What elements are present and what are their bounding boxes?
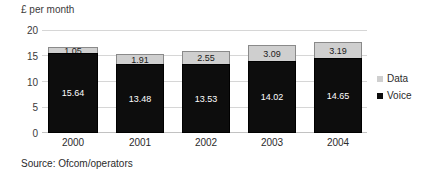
bar-group-2003[interactable]: 3.09 14.02 [248, 45, 296, 133]
bar-segment-data-2002[interactable]: 2.55 [182, 51, 230, 64]
gridline-20 [42, 30, 367, 31]
bar-group-2002[interactable]: 2.55 13.53 [182, 51, 230, 133]
bar-segment-data-2003[interactable]: 3.09 [248, 45, 296, 61]
legend-swatch-data-icon [377, 76, 383, 82]
bar-group-2004[interactable]: 3.19 14.65 [314, 42, 362, 133]
legend-item-data[interactable]: Data [377, 73, 411, 84]
bar-segment-voice-2000[interactable]: 15.64 [48, 53, 98, 133]
bar-label-voice-2000: 15.64 [49, 88, 97, 98]
y-axis-tick-labels: 20 15 10 5 0 [8, 30, 38, 133]
y-tick-15: 15 [10, 50, 38, 61]
legend-item-voice[interactable]: Voice [377, 90, 411, 101]
bar-label-data-2004: 3.19 [315, 46, 361, 56]
x-label-2004: 2004 [314, 137, 362, 148]
bar-label-voice-2002: 13.53 [183, 94, 229, 104]
bar-label-data-2002: 2.55 [183, 53, 229, 63]
bar-segment-data-2004[interactable]: 3.19 [314, 42, 362, 58]
bar-label-data-2003: 3.09 [249, 49, 295, 59]
bar-segment-voice-2004[interactable]: 14.65 [314, 58, 362, 133]
y-tick-5: 5 [10, 102, 38, 113]
x-label-2001: 2001 [116, 137, 164, 148]
y-tick-0: 0 [10, 128, 38, 139]
y-axis-title: £ per month [21, 4, 74, 15]
bar-segment-voice-2001[interactable]: 13.48 [116, 64, 164, 133]
bar-segment-voice-2002[interactable]: 13.53 [182, 64, 230, 133]
bar-segment-data-2001[interactable]: 1.91 [116, 54, 164, 64]
bar-label-voice-2003: 14.02 [249, 92, 295, 102]
source-note: Source: Ofcom/operators [21, 158, 133, 169]
chart-legend: Data Voice [377, 73, 411, 101]
bar-group-2001[interactable]: 1.91 13.48 [116, 54, 164, 133]
x-label-2003: 2003 [248, 137, 296, 148]
legend-swatch-voice-icon [377, 93, 383, 99]
y-tick-10: 10 [10, 76, 38, 87]
legend-label-voice: Voice [387, 90, 411, 101]
bar-group-2000[interactable]: 1.05 15.64 [48, 47, 98, 133]
bar-label-voice-2001: 13.48 [117, 94, 163, 104]
x-label-2000: 2000 [48, 137, 98, 148]
x-label-2002: 2002 [182, 137, 230, 148]
y-tick-20: 20 [10, 25, 38, 36]
bar-label-voice-2004: 14.65 [315, 91, 361, 101]
bar-segment-voice-2003[interactable]: 14.02 [248, 61, 296, 133]
chart-screenshot: £ per month 20 15 10 5 0 1.05 15.64 1.91 [0, 0, 428, 179]
legend-label-data: Data [387, 73, 408, 84]
plot-area: 1.05 15.64 1.91 13.48 2.55 13.53 [42, 30, 367, 133]
bar-label-data-2001: 1.91 [117, 55, 163, 65]
